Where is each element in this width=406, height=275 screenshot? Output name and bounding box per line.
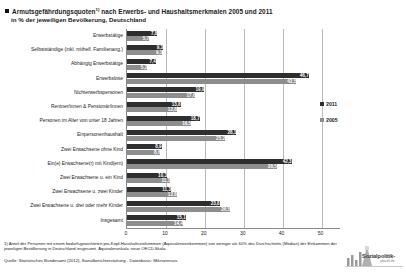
title-rest: nach Erwerbs- und Haushaltsmerkmalen 200…	[100, 8, 273, 15]
logo-subtext: aktuell.de	[380, 259, 395, 263]
category-label: Rentner/innen & Pensionär/innen	[0, 104, 123, 110]
bar-value-label: 10,3	[127, 173, 167, 178]
legend-label: 2005	[326, 117, 338, 123]
x-tick-label: 20	[201, 230, 207, 236]
bar-value-label: 26,5	[127, 207, 230, 212]
category-label: Einpersonenhaushalt	[0, 132, 123, 138]
bar-value-label: 8,9	[127, 144, 162, 149]
plot-area: 7,85,79,39,17,45,246,743,519,917,613,812…	[126, 29, 341, 228]
bar-value-label: 11,3	[127, 187, 171, 192]
title-main: Armutsgefährdungsquoten	[12, 8, 96, 15]
category-label: Erwerbslose	[0, 76, 123, 82]
category-label: Abhängig Erwerbstätige	[0, 61, 123, 67]
x-tick-label: 40	[279, 230, 285, 236]
x-tick-label: 30	[240, 230, 246, 236]
x-tick-label: 0	[125, 230, 128, 236]
bar-value-label: 38,5	[127, 164, 277, 169]
chart-legend: 20112005	[320, 101, 338, 133]
table-row: 15,114,4	[127, 215, 341, 226]
legend-swatch-icon	[320, 118, 324, 122]
source-note: Quelle: Statistisches Bundesamt (2012), …	[4, 258, 177, 263]
bar-rows: 7,85,79,39,17,45,246,743,519,917,613,812…	[127, 29, 341, 228]
bar-value-label: 5,2	[127, 65, 147, 70]
bar-value-label: 42,3	[127, 159, 292, 164]
x-tick-label: 10	[162, 230, 168, 236]
category-label: Zwei Erwachsene ohne Kind	[0, 147, 123, 153]
x-axis-line	[126, 228, 340, 229]
category-label: Zwei Erwachsene u. ein Kind	[0, 175, 123, 181]
bar-value-label: 5,7	[127, 36, 149, 41]
chart-title-block: Armutsgefährdungsquoten1) nach Erwerbs- …	[5, 6, 401, 24]
bar-value-label: 7,4	[127, 59, 156, 64]
category-label: Selbstständige (inkl. mithelf. Familiena…	[0, 47, 123, 53]
table-row: 13,812,8	[127, 102, 341, 113]
table-row: 8,98,6	[127, 144, 341, 155]
table-row: 9,39,1	[127, 45, 341, 56]
bar-value-label: 18,7	[127, 116, 200, 121]
category-label: Personen im Alter von unter 18 Jahren	[0, 118, 123, 124]
footnote-1: 1) Anteil der Personen mit einem bedarfs…	[4, 241, 339, 252]
bar-value-label: 15,1	[127, 215, 186, 220]
logo[interactable]: Sozialpolitik- aktuell.de	[345, 240, 403, 272]
category-label: Erwerbstätige	[0, 33, 123, 39]
chart-page: Armutsgefährdungsquoten1) nach Erwerbs- …	[0, 0, 406, 275]
page-title: Armutsgefährdungsquoten1) nach Erwerbs- …	[5, 6, 401, 16]
bar-value-label: 11,1	[127, 178, 170, 183]
legend-item-2005[interactable]: 2005	[320, 117, 338, 123]
bar-value-label: 12,8	[127, 192, 177, 197]
bar-value-label: 7,8	[127, 31, 157, 36]
table-row: 23,826,5	[127, 201, 341, 212]
table-row: 46,743,5	[127, 73, 341, 84]
legend-swatch-icon	[320, 102, 324, 106]
category-label: Zwei Erwachsene u. drei oder mehr Kinder	[0, 203, 123, 209]
legend-item-2011[interactable]: 2011	[320, 101, 338, 107]
table-row: 19,917,6	[127, 87, 341, 98]
page-subtitle: in % der jeweiligen Bevölkerung, Deutsch…	[5, 16, 401, 24]
bullet-square-icon	[5, 9, 9, 13]
table-row: 28,125,2	[127, 130, 341, 141]
category-label: Zwei Erwachsene u. zwei Kinder	[0, 189, 123, 195]
bar-value-label: 14,4	[127, 221, 183, 226]
bar-value-label: 13,8	[127, 102, 181, 107]
table-row: 18,716,5	[127, 116, 341, 127]
bar-value-label: 46,7	[127, 73, 309, 78]
bar-value-label: 9,3	[127, 45, 163, 50]
bar-value-label: 19,9	[127, 87, 204, 92]
table-row: 11,312,8	[127, 187, 341, 198]
bar-value-label: 25,2	[127, 136, 225, 141]
table-row: 42,338,5	[127, 159, 341, 170]
bar-value-label: 12,8	[127, 107, 177, 112]
category-axis-labels: ErwerbstätigeSelbstständige (inkl. mithe…	[0, 29, 123, 228]
category-label: Ein(e) Erwachsene(r) mit Kind(ern)	[0, 161, 123, 167]
bar-value-label: 23,8	[127, 201, 220, 206]
category-label: Insgesamt	[0, 218, 123, 224]
category-label: Nichterwerbspersonen	[0, 90, 123, 96]
bar-value-label: 8,6	[127, 150, 160, 155]
x-axis-ticks: 01020304050	[126, 230, 340, 239]
table-row: 10,311,1	[127, 173, 341, 184]
legend-label: 2011	[326, 101, 337, 107]
bar-value-label: 43,5	[127, 79, 296, 84]
bar-value-label: 17,6	[127, 93, 195, 98]
bar-value-label: 9,1	[127, 50, 162, 55]
x-tick-label: 50	[318, 230, 324, 236]
table-row: 7,85,7	[127, 31, 341, 42]
bar-value-label: 16,5	[127, 121, 191, 126]
table-row: 7,45,2	[127, 59, 341, 70]
bar-value-label: 28,1	[127, 130, 236, 135]
